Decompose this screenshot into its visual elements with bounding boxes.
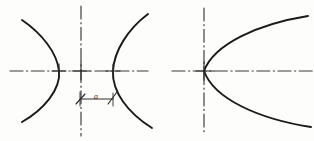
dimension-a-tick-right [108, 92, 117, 104]
right-arc-vertex-cross [106, 64, 120, 78]
left-origin-cross [72, 62, 90, 80]
dimension-a-label: a [94, 93, 98, 101]
figure-canvas [0, 0, 314, 141]
parabola-vertex-cross [196, 62, 214, 80]
left-arc-vertex-cross [52, 64, 66, 78]
technical-drawing-figure: a [0, 0, 314, 141]
right-figure-group [172, 8, 314, 133]
left-figure-group [10, 6, 152, 136]
